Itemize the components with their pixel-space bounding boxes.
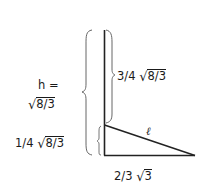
lower-segment-label: 1/4 √8/3 xyxy=(15,136,64,150)
sqrt-expression: √8/3 xyxy=(28,97,55,111)
radicand: 3 xyxy=(144,169,151,183)
radical-sign: √ xyxy=(28,98,36,111)
radical-sign: √ xyxy=(136,170,144,183)
radicand: 8/3 xyxy=(147,69,166,83)
hypotenuse-label: ℓ xyxy=(146,126,151,137)
radical-sign: √ xyxy=(37,137,45,150)
upper-segment-label: 3/4 √8/3 xyxy=(117,69,166,83)
upper-segment-brace xyxy=(106,30,115,123)
h-value-label: √8/3 xyxy=(28,97,55,111)
radicand: 8/3 xyxy=(36,97,55,111)
coefficient: 3/4 xyxy=(117,69,139,83)
base-label: 2/3 √3 xyxy=(114,169,152,183)
sqrt-expression: √8/3 xyxy=(37,136,64,150)
coefficient: 2/3 xyxy=(114,169,136,183)
lower-segment-brace xyxy=(97,126,101,155)
radicand: 8/3 xyxy=(45,136,64,150)
sqrt-expression: √3 xyxy=(136,169,152,183)
h-equals-label: h = xyxy=(38,80,59,92)
h-brace xyxy=(82,30,92,155)
radical-sign: √ xyxy=(139,70,147,83)
sqrt-expression: √8/3 xyxy=(139,69,166,83)
coefficient: 1/4 xyxy=(15,136,37,150)
geometry-canvas xyxy=(0,0,205,191)
